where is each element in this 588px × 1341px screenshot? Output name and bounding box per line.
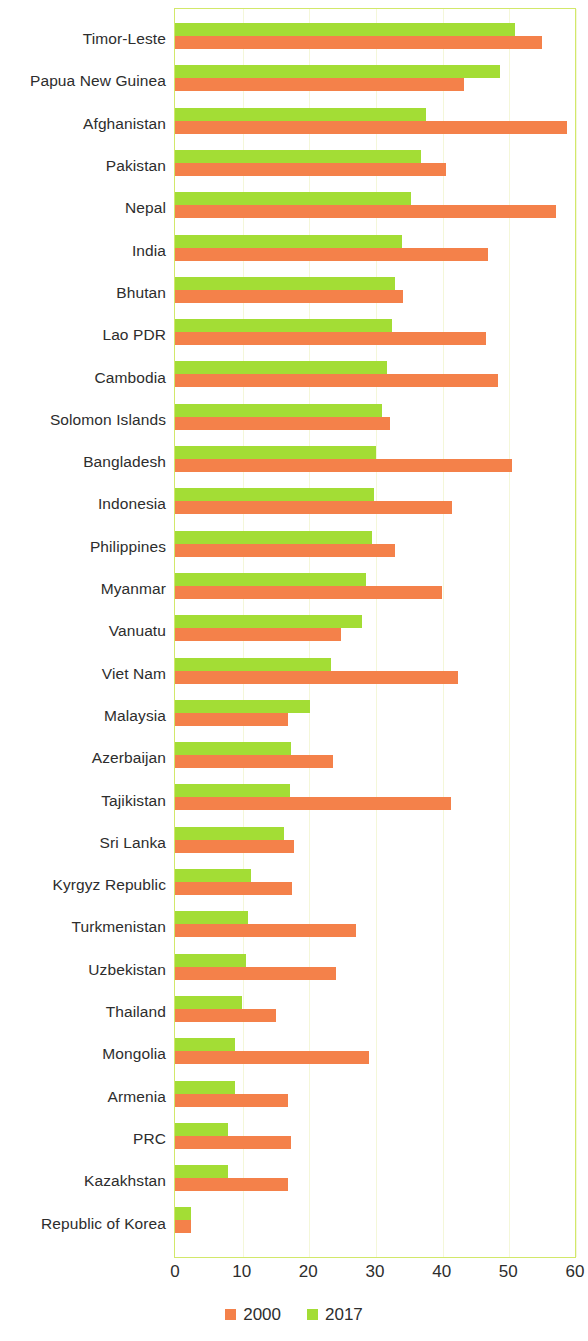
- bar-2017: [175, 108, 426, 121]
- category-label: Malaysia: [0, 707, 166, 725]
- bar-group: [175, 1204, 575, 1246]
- bar-group: [175, 443, 575, 485]
- bar-2000: [175, 840, 294, 853]
- category-label: Sri Lanka: [0, 834, 166, 852]
- bar-group: [175, 62, 575, 104]
- x-tick-label-30: 30: [366, 1262, 385, 1282]
- bar-group: [175, 1120, 575, 1162]
- bar-2017: [175, 319, 392, 332]
- bar-2017: [175, 1081, 235, 1094]
- bar-2000: [175, 1178, 288, 1191]
- bar-2000: [175, 924, 356, 937]
- bar-2017: [175, 531, 372, 544]
- bar-group: [175, 1035, 575, 1077]
- plot-area: [174, 8, 576, 1258]
- bar-2017: [175, 192, 411, 205]
- category-label: Solomon Islands: [0, 411, 166, 429]
- category-label: Viet Nam: [0, 665, 166, 683]
- bar-2000: [175, 586, 442, 599]
- bar-group: [175, 316, 575, 358]
- bar-group: [175, 147, 575, 189]
- category-label: Azerbaijan: [0, 749, 166, 767]
- bar-2017: [175, 869, 251, 882]
- bar-2000: [175, 121, 567, 134]
- bar-2000: [175, 417, 390, 430]
- category-label: Lao PDR: [0, 326, 166, 344]
- bar-2000: [175, 248, 488, 261]
- chart-legend: 20002017: [0, 1306, 588, 1323]
- category-label: Tajikistan: [0, 792, 166, 810]
- bar-group: [175, 824, 575, 866]
- bar-group: [175, 655, 575, 697]
- bar-group: [175, 1162, 575, 1204]
- bar-2017: [175, 1165, 228, 1178]
- legend-item-2017[interactable]: 2017: [307, 1306, 363, 1323]
- legend-swatch-2017: [307, 1309, 318, 1320]
- bar-2017: [175, 150, 421, 163]
- bar-group: [175, 570, 575, 612]
- legend-item-2000[interactable]: 2000: [225, 1306, 281, 1323]
- bar-2000: [175, 1051, 369, 1064]
- x-tick-label-60: 60: [566, 1262, 585, 1282]
- bar-2000: [175, 544, 395, 557]
- bar-group: [175, 612, 575, 654]
- bar-group: [175, 951, 575, 993]
- category-label: Philippines: [0, 538, 166, 556]
- bar-2017: [175, 827, 284, 840]
- gridline-60: [576, 9, 577, 1257]
- category-label: Afghanistan: [0, 115, 166, 133]
- bar-2000: [175, 797, 451, 810]
- bar-group: [175, 485, 575, 527]
- x-tick-label-20: 20: [299, 1262, 318, 1282]
- bar-2017: [175, 615, 362, 628]
- bar-2000: [175, 78, 464, 91]
- category-label: Republic of Korea: [0, 1215, 166, 1233]
- bar-group: [175, 528, 575, 570]
- category-label: Myanmar: [0, 580, 166, 598]
- bar-2017: [175, 488, 374, 501]
- x-tick-label-10: 10: [232, 1262, 251, 1282]
- bar-2000: [175, 882, 292, 895]
- bar-group: [175, 781, 575, 823]
- category-label: PRC: [0, 1130, 166, 1148]
- bar-group: [175, 105, 575, 147]
- category-label: India: [0, 242, 166, 260]
- bar-group: [175, 274, 575, 316]
- bar-2000: [175, 713, 288, 726]
- bar-group: [175, 993, 575, 1035]
- bar-group: [175, 358, 575, 400]
- x-tick-label-40: 40: [432, 1262, 451, 1282]
- bar-2017: [175, 1207, 191, 1220]
- bar-2000: [175, 1009, 276, 1022]
- category-label: Bhutan: [0, 284, 166, 302]
- bar-group: [175, 1078, 575, 1120]
- bar-2017: [175, 446, 376, 459]
- category-label: Pakistan: [0, 157, 166, 175]
- bar-2017: [175, 996, 242, 1009]
- bar-2000: [175, 967, 336, 980]
- category-label: Turkmenistan: [0, 918, 166, 936]
- bar-2017: [175, 65, 500, 78]
- category-label: Vanuatu: [0, 622, 166, 640]
- bar-2017: [175, 235, 402, 248]
- bar-group: [175, 908, 575, 950]
- bar-2000: [175, 755, 333, 768]
- bar-2017: [175, 954, 246, 967]
- category-label: Cambodia: [0, 369, 166, 387]
- category-label: Indonesia: [0, 495, 166, 513]
- bar-2000: [175, 374, 498, 387]
- x-axis: 0102030405060: [174, 1262, 576, 1294]
- legend-label: 2017: [325, 1306, 363, 1323]
- category-label: Kazakhstan: [0, 1172, 166, 1190]
- bar-group: [175, 20, 575, 62]
- bar-2017: [175, 404, 382, 417]
- bar-group: [175, 866, 575, 908]
- bar-2017: [175, 784, 290, 797]
- bar-2017: [175, 658, 331, 671]
- bar-2000: [175, 163, 446, 176]
- bar-group: [175, 739, 575, 781]
- bar-group: [175, 232, 575, 274]
- bar-2000: [175, 459, 512, 472]
- bar-2017: [175, 742, 291, 755]
- bar-2000: [175, 205, 556, 218]
